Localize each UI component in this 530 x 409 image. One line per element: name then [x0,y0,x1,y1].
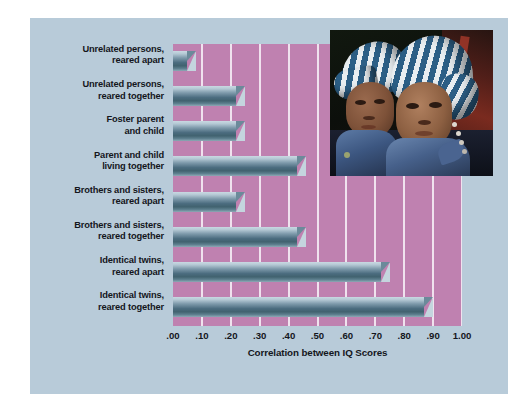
category-label-line1: Unrelated persons, [82,44,164,54]
category-label-line1: Identical twins, [100,290,164,300]
x-tick-label: .60 [340,330,353,341]
bar-tip-shade [236,86,245,96]
bar-tip-shade [297,156,306,166]
x-tick-label: .20 [224,330,237,341]
category-label: Brothers and sisters, reared together [30,220,164,243]
gridline [317,44,319,326]
twin-infants-photo [330,30,493,176]
bar-tip-shade [381,262,390,272]
category-label: Parent and child living together [30,150,164,173]
figure-root: Unrelated persons, reared apart Unrelate… [0,0,530,409]
category-label-line2: living together [102,161,164,171]
category-label-line2: reared together [98,231,164,241]
category-label-line1: Unrelated persons, [82,79,164,89]
bar-tip-shade [187,51,196,61]
category-label: Identical twins, reared together [30,290,164,313]
x-axis-ticks: .00.10.20.30.40.50.60.70.80.901.00 [173,330,462,344]
x-tick-label: .30 [253,330,266,341]
bar [173,227,297,247]
bar [173,297,424,317]
x-tick-label: 1.00 [453,330,472,341]
category-label-line1: Parent and child [94,150,164,160]
x-tick-label: .90 [426,330,439,341]
category-label-line2: reared apart [112,55,164,65]
category-label-line2: reared together [98,302,164,312]
x-tick-label: .70 [369,330,382,341]
gridline [259,44,261,326]
bar [173,86,236,106]
bar [173,51,187,71]
category-label: Unrelated persons, reared together [30,79,164,102]
x-tick-label: .80 [398,330,411,341]
bar [173,156,297,176]
category-label-line2: reared apart [112,267,164,277]
bar [173,121,236,141]
category-label-line1: Foster parent [107,114,164,124]
x-tick-label: .40 [282,330,295,341]
x-axis-title: Correlation between IQ Scores [173,347,462,358]
category-label-line2: reared together [98,91,164,101]
bar-tip-shade [424,297,433,307]
x-tick-label: .50 [311,330,324,341]
category-label: Unrelated persons, reared apart [30,44,164,67]
category-label: Foster parent and child [30,114,164,137]
x-tick-label: .00 [166,330,179,341]
category-label-line1: Brothers and sisters, [74,185,164,195]
bar-tip-shade [297,227,306,237]
category-label: Brothers and sisters, reared apart [30,185,164,208]
bar [173,262,381,282]
x-tick-label: .10 [195,330,208,341]
gridline [288,44,290,326]
category-label: Identical twins, reared apart [30,255,164,278]
category-axis-labels: Unrelated persons, reared apart Unrelate… [30,44,164,326]
category-label-line1: Identical twins, [100,255,164,265]
bar-tip-shade [236,192,245,202]
bar [173,192,236,212]
category-label-line1: Brothers and sisters, [74,220,164,230]
category-label-line2: reared apart [112,196,164,206]
bar-tip-shade [236,121,245,131]
category-label-line2: and child [125,126,164,136]
